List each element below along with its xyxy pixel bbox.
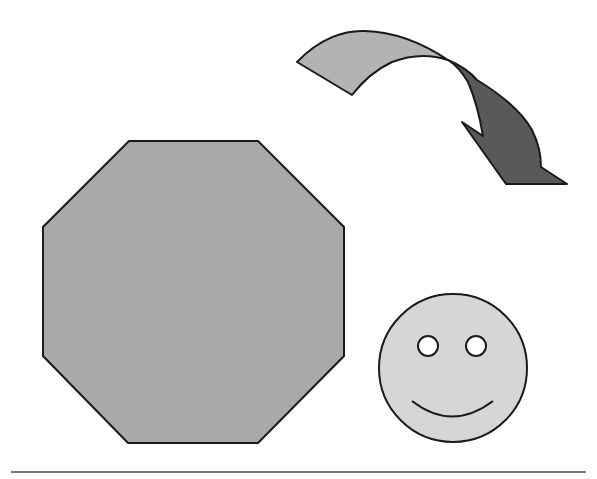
smiley-face-circle	[379, 294, 527, 442]
smiley-face-icon	[379, 294, 527, 442]
smiley-left-eye	[418, 336, 438, 356]
diagram-canvas	[0, 0, 597, 479]
arrow-head	[448, 60, 567, 184]
smiley-right-eye	[466, 336, 486, 356]
octagon-shape	[43, 141, 344, 443]
arrow-tail	[297, 31, 448, 95]
